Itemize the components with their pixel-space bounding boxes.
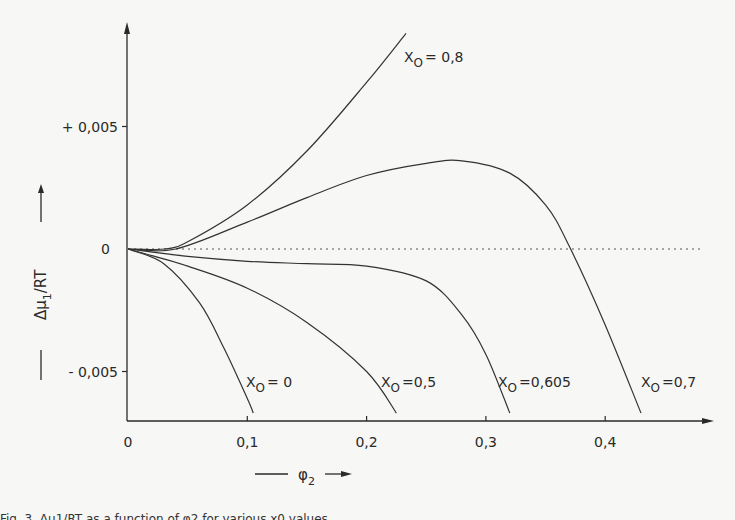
curve-labels: XO= 0,8XO=0,7XO=0,605XO=0,5XO= 0: [246, 49, 696, 395]
figure-caption: Fig. 3. Δμ1/RT as a function of φ2 for v…: [0, 507, 735, 520]
curves: [128, 33, 641, 413]
y-label-rest: /RT: [32, 269, 50, 293]
curve-label-x0-00: XO= 0: [246, 374, 292, 395]
y-label-arrow-icon: [38, 184, 44, 193]
x-label-symbol: φ: [298, 466, 308, 484]
curve-label-x0-005: XO=0,5: [381, 374, 436, 395]
x-label-sub: 2: [308, 475, 315, 488]
y-tick-label: - 0,005: [68, 364, 118, 380]
y-tick-label: 0: [101, 241, 110, 257]
curve-x0-008: [128, 33, 406, 249]
x-tick-label: 0,3: [475, 434, 497, 450]
y-axis-arrow-icon: [124, 22, 130, 34]
svg-text:φ2: φ2: [298, 466, 315, 488]
y-ticks: + 0,0050- 0,005: [62, 119, 127, 380]
x-axis-label: φ2: [255, 466, 352, 488]
curve-label-x0-00605: XO=0,605: [498, 374, 571, 395]
y-label-main: Δμ: [32, 300, 50, 320]
y-label-sub: 1: [41, 293, 54, 300]
chart: 00,10,20,30,4 + 0,0050- 0,005 XO= 0,8XO=…: [0, 0, 735, 520]
x-tick-label: 0: [124, 434, 133, 450]
x-tick-label: 0,4: [594, 434, 616, 450]
curve-x0-00: [128, 249, 253, 413]
x-tick-label: 0,1: [236, 434, 258, 450]
curve-label-x0-007: XO=0,7: [641, 374, 696, 395]
x-axis-arrow-icon: [702, 418, 714, 424]
y-tick-label: + 0,005: [62, 119, 118, 135]
y-axis-label: Δμ1/RT: [32, 184, 54, 380]
x-label-arrow-icon: [341, 471, 352, 477]
curve-label-x0-008: XO= 0,8: [404, 49, 464, 70]
axes: [127, 30, 706, 421]
x-tick-label: 0,2: [355, 434, 377, 450]
svg-text:Δμ1/RT: Δμ1/RT: [32, 269, 54, 320]
